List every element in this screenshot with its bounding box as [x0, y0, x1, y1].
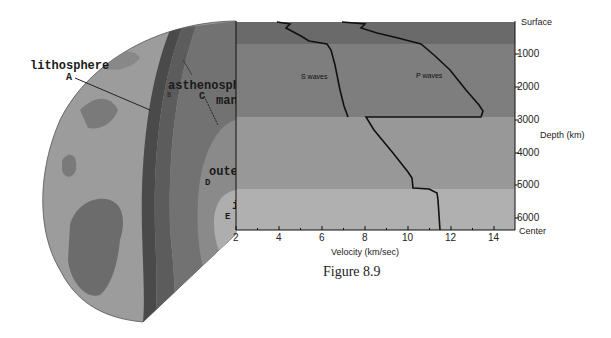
p-wave-label: P waves	[416, 72, 443, 79]
y-axis-title: Depth (km)	[540, 130, 585, 140]
band-inner-core	[236, 189, 515, 230]
x-tick-2: 2	[233, 232, 239, 243]
x-tick-10: 10	[402, 232, 413, 243]
band-lower-mantle	[236, 44, 515, 117]
y-tick-3000: 3000	[517, 114, 539, 125]
x-axis-title: Velocity (km/sec)	[331, 247, 399, 257]
x-tick-14: 14	[488, 232, 499, 243]
s-wave-label: S waves	[301, 73, 328, 80]
y-tick-6000: 6000	[517, 212, 539, 223]
band-outer-core	[236, 117, 515, 189]
y-tick-5000: 5000	[517, 179, 539, 190]
figure-caption: Figure 8.9	[323, 264, 381, 280]
y-label-surface: Surface	[521, 17, 552, 27]
x-tick-6: 6	[319, 232, 325, 243]
x-tick-4: 4	[276, 232, 282, 243]
y-tick-2000: 2000	[517, 81, 539, 92]
y-ticks	[515, 54, 519, 218]
x-tick-12: 12	[445, 232, 456, 243]
y-tick-4000: 4000	[517, 147, 539, 158]
y-tick-1000: 1000	[517, 48, 539, 59]
x-tick-8: 8	[362, 232, 368, 243]
y-label-center: Center	[519, 226, 546, 236]
